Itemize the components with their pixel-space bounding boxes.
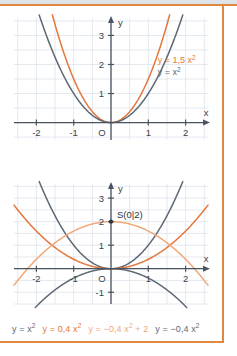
legend-item-3: y = −0,4 x2 + 2 bbox=[88, 322, 148, 334]
chart-lower: -2-112-1123xyOS(0|2) bbox=[0, 176, 222, 316]
origin-label: O bbox=[98, 127, 105, 138]
axes bbox=[14, 16, 210, 140]
legend-item-1: y = x2 bbox=[12, 322, 35, 334]
x-tick-label: 2 bbox=[183, 127, 188, 138]
y-tick-label: 2 bbox=[99, 216, 104, 227]
x-tick-label: 1 bbox=[146, 127, 151, 138]
point-label-S: S(0|2) bbox=[117, 209, 143, 220]
point-marker-S bbox=[109, 220, 113, 224]
chart-upper-canvas: -2-112123xyOy = 1,5 x2y = x2 bbox=[0, 8, 222, 168]
axes bbox=[14, 182, 210, 304]
x-tick-label: -1 bbox=[69, 273, 77, 284]
x-tick-label: 1 bbox=[146, 273, 151, 284]
origin-label: O bbox=[98, 273, 105, 284]
chart-upper: -2-112123xyOy = 1,5 x2y = x2 bbox=[0, 8, 222, 168]
y-tick-label: 3 bbox=[99, 30, 104, 41]
curve-annotation-1: y = 1,5 x2 bbox=[158, 54, 196, 65]
y-axis-label: y bbox=[118, 183, 123, 194]
x-axis-label: x bbox=[204, 253, 209, 264]
chart-lower-legend: y = x2y = 0,4 x2y = −0,4 x2 + 2y = −0,4 … bbox=[0, 316, 222, 340]
x-tick-label: -1 bbox=[69, 127, 77, 138]
frame-top-border bbox=[0, 4, 237, 6]
legend-item-2: y = 0,4 x2 bbox=[42, 322, 81, 334]
legend-item-4: y = −0,4 x2 bbox=[155, 322, 199, 334]
frame-right-border bbox=[222, 4, 224, 343]
x-axis-arrow bbox=[203, 120, 210, 126]
curve-annotation-2: y = x2 bbox=[158, 66, 181, 77]
y-axis-arrow bbox=[108, 16, 114, 23]
x-axis-label: x bbox=[204, 107, 209, 118]
x-axis-arrow bbox=[203, 266, 210, 272]
y-axis-label: y bbox=[118, 17, 123, 28]
frame-bottom-border bbox=[0, 341, 224, 343]
y-tick-label: 2 bbox=[99, 59, 104, 70]
y-tick-label: 3 bbox=[99, 193, 104, 204]
chart-lower-canvas: -2-112-1123xyOS(0|2) bbox=[0, 176, 222, 316]
figure-page: -2-112123xyOy = 1,5 x2y = x2 -2-112-1123… bbox=[0, 0, 237, 356]
y-tick-label: 1 bbox=[99, 240, 104, 251]
y-tick-label: 1 bbox=[99, 88, 104, 99]
y-axis-arrow bbox=[108, 182, 114, 189]
x-tick-label: 2 bbox=[183, 273, 188, 284]
x-tick-label: -2 bbox=[32, 127, 40, 138]
y-tick-label: -1 bbox=[96, 287, 104, 298]
x-tick-label: -2 bbox=[32, 273, 40, 284]
